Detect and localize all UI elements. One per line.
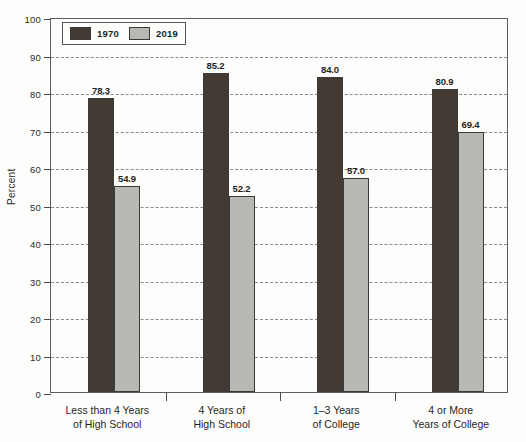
y-tick-mark [44,282,51,283]
category-label-line: 1–3 Years [279,403,394,417]
bar-group: 84.057.0 [280,19,395,392]
category-label-2: 4 Years ofHigh School [165,403,280,431]
bar-2019-3[interactable]: 57.0 [343,178,369,392]
x-axis-separator-tick [166,392,167,401]
y-tick-label: 100 [25,14,41,25]
bar-group: 85.252.2 [166,19,281,392]
y-tick-mark [44,394,51,395]
bar-1970-4[interactable]: 80.9 [432,89,458,392]
x-axis-separator-tick [395,392,396,401]
category-label-line: Less than 4 Years [50,403,165,417]
bar-value-label: 84.0 [321,64,339,75]
category-label-line: Years of College [394,417,509,431]
y-tick-label: 10 [30,351,41,362]
y-tick-label: 70 [30,126,41,137]
chart-legend: 19702019 [62,22,186,45]
y-tick-label: 20 [30,314,41,325]
bar-value-label: 54.9 [118,173,136,184]
legend-label: 1970 [97,28,119,39]
y-tick-label: 50 [30,201,41,212]
bar-2019-2[interactable]: 52.2 [229,196,255,392]
bar-value-label: 69.4 [461,119,479,130]
y-tick-mark [44,207,51,208]
y-tick-mark [44,244,51,245]
y-tick-mark [44,132,51,133]
category-label-4: 4 or MoreYears of College [394,403,509,431]
legend-label: 2019 [156,28,178,39]
category-label-3: 1–3 Yearsof College [279,403,394,431]
y-tick-label: 80 [30,89,41,100]
legend-item-2019[interactable]: 2019 [129,27,178,40]
bar-value-label: 80.9 [435,76,453,87]
y-tick-mark [44,169,51,170]
y-tick-label: 0 [36,389,41,400]
bar-2019-1[interactable]: 54.9 [114,186,140,392]
legend-item-1970[interactable]: 1970 [70,27,119,40]
y-tick-mark [44,357,51,358]
bar-1970-3[interactable]: 84.0 [317,77,343,392]
y-tick-mark [44,19,51,20]
y-tick-label: 60 [30,164,41,175]
category-label-line: 4 or More [394,403,509,417]
legend-swatch-icon [129,27,150,40]
y-tick-label: 90 [30,51,41,62]
category-label-line: High School [165,417,280,431]
bar-value-label: 78.3 [92,85,110,96]
bar-2019-4[interactable]: 69.4 [458,132,484,392]
bar-1970-1[interactable]: 78.3 [88,98,114,392]
x-axis-separator-tick [280,392,281,401]
y-tick-mark [44,319,51,320]
bar-value-label: 85.2 [206,60,224,71]
bar-chart-figure: Percent 0102030405060708090100 78.354.98… [0,0,526,442]
plot-area: 0102030405060708090100 78.354.985.252.28… [50,18,508,393]
y-tick-mark [44,94,51,95]
y-tick-label: 40 [30,239,41,250]
bar-value-label: 57.0 [347,165,365,176]
y-axis-title: Percent [6,168,17,205]
y-tick-label: 30 [30,276,41,287]
category-label-line: of College [279,417,394,431]
bar-group: 78.354.9 [51,19,166,392]
y-tick-mark [44,57,51,58]
bar-value-label: 52.2 [232,183,250,194]
category-label-line: 4 Years of [165,403,280,417]
bar-1970-2[interactable]: 85.2 [203,73,229,393]
bar-group: 80.969.4 [395,19,510,392]
legend-swatch-icon [70,27,91,40]
category-label-line: of High School [50,417,165,431]
category-label-1: Less than 4 Yearsof High School [50,403,165,431]
